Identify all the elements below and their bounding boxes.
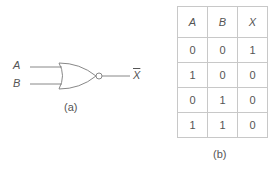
- header-a: A: [178, 7, 208, 38]
- caption-a: (a): [64, 101, 77, 113]
- input-b-label: B: [13, 77, 20, 89]
- caption-b: (b): [213, 148, 226, 160]
- cell: 1: [208, 88, 238, 113]
- truth-table: A B X 0 0 1 1 0 0 0 1 0 1 1 0: [177, 6, 268, 138]
- cell: 0: [208, 63, 238, 88]
- cell: 1: [238, 38, 268, 63]
- cell: 0: [238, 88, 268, 113]
- cell: 1: [208, 113, 238, 138]
- nor-gate-body: [59, 63, 96, 89]
- cell: 0: [178, 38, 208, 63]
- header-x: X: [238, 7, 268, 38]
- input-a-label: A: [13, 59, 20, 71]
- header-row: A B X: [178, 7, 268, 38]
- inversion-bubble: [96, 73, 102, 79]
- cell: 0: [208, 38, 238, 63]
- table-row: 0 1 0: [178, 88, 268, 113]
- table-row: 0 0 1: [178, 38, 268, 63]
- cell: 0: [238, 63, 268, 88]
- cell: 0: [238, 113, 268, 138]
- nor-gate-diagram: [0, 0, 140, 171]
- cell: 1: [178, 113, 208, 138]
- output-label: X: [133, 69, 140, 81]
- cell: 1: [178, 63, 208, 88]
- header-b: B: [208, 7, 238, 38]
- cell: 0: [178, 88, 208, 113]
- table-row: 1 1 0: [178, 113, 268, 138]
- table-row: 1 0 0: [178, 63, 268, 88]
